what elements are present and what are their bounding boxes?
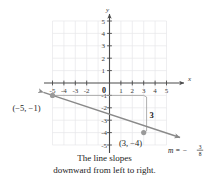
x-tick-label: 1: [119, 87, 123, 95]
y-tick-label: 3: [102, 42, 106, 50]
y-tick-label: 2: [102, 55, 106, 63]
y-tick-label: 1: [102, 67, 106, 75]
graph-figure: x y -5 -4 -3: [0, 0, 209, 183]
x-tick-label: 5: [165, 87, 169, 95]
figure-caption: The line slopes downward from left to ri…: [0, 152, 209, 176]
point-label-left: (−5, −1): [13, 103, 41, 113]
caption-line-1: The line slopes: [0, 152, 209, 164]
y-tick-label: -5: [101, 142, 107, 150]
x-tick-label: -4: [61, 87, 67, 95]
x-axis-label: x: [187, 75, 192, 83]
x-tick-label: 3: [142, 87, 146, 95]
x-tick-label: -3: [72, 87, 78, 95]
x-tick-label: -2: [84, 87, 90, 95]
x-tick-label: 4: [153, 87, 157, 95]
y-axis-label: y: [105, 6, 110, 14]
data-point-left: [50, 93, 55, 98]
slope-numerator: 3: [199, 144, 202, 150]
rise-value-label: 3: [149, 110, 153, 120]
data-point-right: [141, 130, 146, 135]
y-tick-label: -1: [101, 92, 107, 100]
y-tick-label: -4: [101, 129, 107, 137]
y-tick-label: 4: [102, 30, 106, 38]
y-tick-label: 5: [102, 18, 106, 26]
y-tick-label: -3: [101, 117, 107, 125]
caption-line-2: downward from left to right.: [0, 164, 209, 176]
point-label-right: (3, −4): [119, 138, 142, 148]
x-tick-label: 2: [131, 87, 135, 95]
